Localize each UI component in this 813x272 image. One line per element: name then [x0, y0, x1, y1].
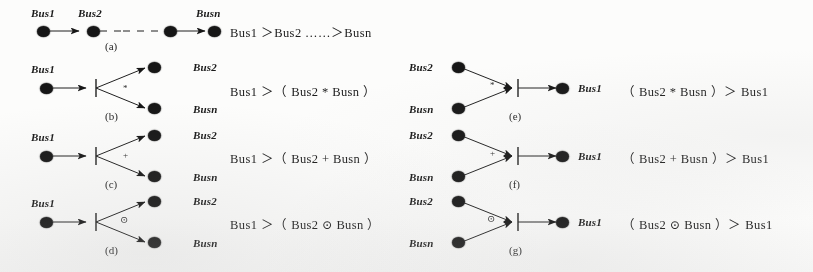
- node-bus2-f: [452, 130, 465, 141]
- label-bus2-g: Bus2: [409, 195, 433, 207]
- label-bus1-g: Bus1: [578, 216, 602, 228]
- formula-a: Bus1 ＞Bus2 ……＞Busn: [230, 22, 372, 41]
- operator-e: *: [490, 80, 495, 90]
- formula-d: Bus1 ＞（ Bus2 ⊙ Busn ）: [230, 214, 381, 233]
- node-bus2-e: [452, 62, 465, 73]
- formula-f: （ Bus2 + Busn ）＞ Bus1: [622, 148, 769, 167]
- label-bus1-e: Bus1: [578, 82, 602, 94]
- node-busn-b: [148, 103, 161, 114]
- node-bus1-e: [556, 83, 569, 94]
- node-bus1-b: [40, 83, 53, 94]
- operator-d: ⊙: [120, 214, 128, 225]
- node-bus1-a: [37, 26, 50, 37]
- node-bus2-d: [148, 196, 161, 207]
- label-bus1-a: Bus1: [31, 7, 55, 19]
- node-busn-f: [452, 171, 465, 182]
- node-bus2-a: [87, 26, 100, 37]
- subfigure-b-wires: [53, 68, 145, 108]
- operator-f: +: [490, 148, 495, 158]
- node-busn-d: [148, 237, 161, 248]
- formula-e: （ Bus2 * Busn ）＞ Bus1: [622, 81, 768, 100]
- caption-f: (f): [509, 178, 520, 190]
- subfigure-e-wires: [462, 68, 556, 108]
- figure-canvas: Bus1 Bus2 Busn (a) Bus1 ＞Bus2 ……＞Busn Bu…: [0, 0, 813, 272]
- node-mid-a: [164, 26, 177, 37]
- operator-g: ⊙: [487, 213, 495, 224]
- label-bus2-d: Bus2: [193, 195, 217, 207]
- label-bus1-c: Bus1: [31, 131, 55, 143]
- label-bus1-d: Bus1: [31, 197, 55, 209]
- node-bus1-d: [40, 217, 53, 228]
- node-bus1-c: [40, 151, 53, 162]
- label-busn-d: Busn: [193, 237, 218, 249]
- label-bus1-b: Bus1: [31, 63, 55, 75]
- subfigure-c-wires: [53, 136, 145, 176]
- operator-b: *: [123, 83, 128, 93]
- label-bus2-f: Bus2: [409, 129, 433, 141]
- label-bus2-c: Bus2: [193, 129, 217, 141]
- label-busn-a: Busn: [196, 7, 221, 19]
- label-bus1-f: Bus1: [578, 150, 602, 162]
- caption-g: (g): [509, 244, 522, 256]
- operator-c: +: [123, 150, 128, 160]
- label-bus2-e: Bus2: [409, 61, 433, 73]
- label-bus2-b: Bus2: [193, 61, 217, 73]
- caption-c: (c): [105, 178, 117, 190]
- label-bus2-a: Bus2: [78, 7, 102, 19]
- node-bus2-b: [148, 62, 161, 73]
- caption-a: (a): [105, 40, 117, 52]
- label-busn-c: Busn: [193, 171, 218, 183]
- node-busn-e: [452, 103, 465, 114]
- label-busn-b: Busn: [193, 103, 218, 115]
- caption-e: (e): [509, 110, 521, 122]
- caption-d: (d): [105, 244, 118, 256]
- label-busn-f: Busn: [409, 171, 434, 183]
- formula-b: Bus1 ＞（ Bus2 * Busn ）: [230, 81, 376, 100]
- subfigure-f-wires: [462, 136, 556, 176]
- node-busn-c: [148, 171, 161, 182]
- label-busn-e: Busn: [409, 103, 434, 115]
- label-busn-g: Busn: [409, 237, 434, 249]
- node-busn-a: [208, 26, 221, 37]
- node-bus1-g: [556, 217, 569, 228]
- formula-c: Bus1 ＞（ Bus2 + Busn ）: [230, 148, 377, 167]
- node-bus2-g: [452, 196, 465, 207]
- subfigure-g-wires: [462, 202, 556, 242]
- caption-b: (b): [105, 110, 118, 122]
- subfigure-d-wires: [53, 202, 145, 242]
- node-bus1-f: [556, 151, 569, 162]
- formula-g: （ Bus2 ⊙ Busn ）＞ Bus1: [622, 214, 773, 233]
- node-busn-g: [452, 237, 465, 248]
- node-bus2-c: [148, 130, 161, 141]
